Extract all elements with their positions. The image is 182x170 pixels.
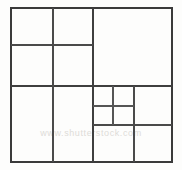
partition-diagram: [0, 0, 182, 170]
figure-canvas: www.shutterstock.com: [0, 0, 182, 170]
segment-layer: [11, 8, 172, 162]
